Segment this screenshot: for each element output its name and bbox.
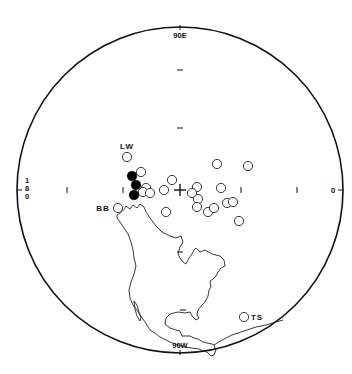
open-point	[234, 216, 243, 225]
open-point-bb	[113, 203, 122, 212]
open-point	[228, 197, 237, 206]
open-point	[145, 188, 154, 197]
open-point	[209, 203, 218, 212]
label-top-90e: 90E	[173, 31, 186, 40]
open-point	[216, 183, 225, 192]
north-america-coastline	[117, 204, 225, 356]
label-left-180-0: 0	[25, 192, 29, 201]
filled-point	[127, 171, 137, 181]
open-point-lw	[122, 152, 131, 161]
stereonet-plot: 90E 90W 0 1 8 0 LW BB TS	[0, 0, 352, 374]
center-cross-icon	[174, 184, 186, 196]
site-label-bb: BB	[96, 204, 110, 213]
open-point	[136, 167, 145, 176]
label-right-0: 0	[331, 186, 335, 195]
open-point	[159, 185, 168, 194]
site-label-lw: LW	[120, 142, 134, 151]
site-label-ts: TS	[251, 313, 263, 322]
open-point	[167, 175, 176, 184]
open-point	[243, 161, 252, 170]
label-bottom-90w: 90W	[172, 341, 188, 350]
open-point	[212, 159, 221, 168]
filled-point	[129, 190, 139, 200]
open-point-ts	[239, 312, 248, 321]
open-point	[161, 207, 170, 216]
filled-point	[131, 180, 141, 190]
open-point	[192, 202, 201, 211]
